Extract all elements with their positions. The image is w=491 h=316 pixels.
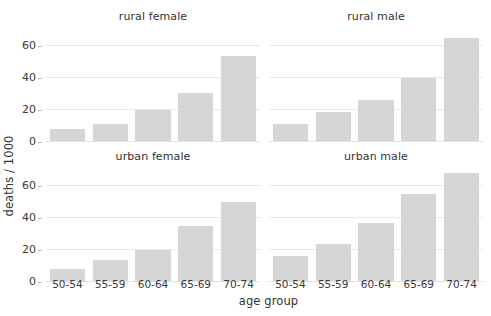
x-tick-label: 70-74 [440, 277, 483, 291]
bar [358, 100, 393, 142]
bar [401, 78, 436, 142]
y-tick-label: 40 [22, 211, 36, 224]
bar [178, 93, 213, 143]
panel-title: urban female [46, 148, 260, 166]
plot-area [46, 167, 260, 282]
y-tick-label: 60 [22, 179, 36, 192]
panel-grid: rural female rural male urban female urb… [46, 8, 491, 290]
y-tick-label: 40 [22, 71, 36, 84]
bar-series [46, 27, 260, 142]
y-tick-label: 60 [22, 39, 36, 52]
panel-title: rural female [46, 8, 260, 26]
y-tick-mark [38, 218, 42, 219]
bar-series [46, 167, 260, 282]
y-tick-mark [38, 78, 42, 79]
axis-baseline [269, 141, 483, 142]
x-tick-label: 50-54 [269, 277, 312, 291]
x-axis-ticks: 50-5455-5960-6465-6970-74 50-5455-5960-6… [46, 277, 491, 293]
y-tick-mark [38, 186, 42, 187]
x-axis-title: age group [46, 294, 491, 310]
y-tick-mark [38, 110, 42, 111]
y-tick-label: 20 [22, 103, 36, 116]
bar [135, 110, 170, 142]
y-tick-mark [38, 142, 42, 143]
bar [358, 223, 393, 282]
bar [316, 112, 351, 142]
x-tick-label: 70-74 [217, 277, 260, 291]
y-tick-mark [38, 250, 42, 251]
bar [444, 173, 479, 282]
x-tick-label: 60-64 [132, 277, 175, 291]
x-tick-label: 50-54 [46, 277, 89, 291]
panel-title: rural male [269, 8, 483, 26]
bar [93, 124, 128, 142]
panel-rural-female: rural female [46, 8, 260, 142]
bar [178, 226, 213, 282]
bar-series [269, 27, 483, 142]
panel-rural-male: rural male [269, 8, 483, 142]
panel-urban-female: urban female [46, 148, 260, 282]
bar [273, 124, 308, 142]
bar [401, 194, 436, 282]
axis-baseline [46, 141, 260, 142]
x-tick-label: 55-59 [312, 277, 355, 291]
bar [221, 202, 256, 282]
y-tick-label: 20 [22, 243, 36, 256]
plot-area [46, 27, 260, 142]
x-tick-label: 65-69 [174, 277, 217, 291]
y-tick-mark [38, 282, 42, 283]
y-tick-mark [38, 46, 42, 47]
x-axis-ticks-right: 50-5455-5960-6465-6970-74 [269, 277, 483, 293]
x-tick-label: 55-59 [89, 277, 132, 291]
x-tick-label: 65-69 [397, 277, 440, 291]
bar [444, 38, 479, 142]
x-tick-label: 60-64 [355, 277, 398, 291]
y-tick-label: 0 [29, 135, 36, 148]
plot-area [269, 167, 483, 282]
y-tick-label: 0 [29, 275, 36, 288]
panel-urban-male: urban male [269, 148, 483, 282]
bar-series [269, 167, 483, 282]
bar [221, 56, 256, 142]
x-axis-ticks-left: 50-5455-5960-6465-6970-74 [46, 277, 260, 293]
panel-title: urban male [269, 148, 483, 166]
plot-area [269, 27, 483, 142]
y-axis-ticks: 02040600204060 [0, 8, 42, 290]
faceted-bar-chart: deaths / 1000 02040600204060 rural femal… [0, 0, 491, 316]
